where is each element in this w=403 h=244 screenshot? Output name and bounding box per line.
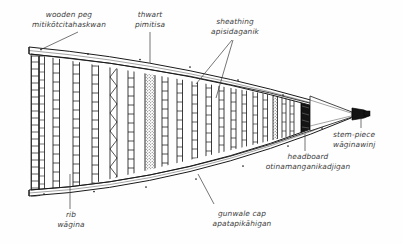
leader-wooden-peg [42, 32, 78, 49]
canoe-framework-drawing [0, 0, 403, 244]
label-sheathing-english: sheathing [196, 17, 274, 27]
label-wooden-peg-english: wooden peg [14, 10, 124, 20]
label-stem-piece-native: wāginawinj [333, 140, 403, 150]
label-gunwale-cap-english: gunwale cap [188, 209, 296, 219]
label-thwart-native: pimitisa [118, 20, 182, 30]
rib-ladder [73, 57, 80, 195]
label-wooden-peg: wooden peg mitikōtcitahaskwan [14, 10, 124, 29]
rib-ladder [177, 67, 183, 184]
label-headboard-english: headboard [253, 152, 363, 162]
rib-ladder [242, 79, 247, 163]
label-rib-native: wāgina [44, 220, 98, 230]
rib-ladder [53, 56, 60, 196]
rib-ladder [231, 76, 236, 167]
rib-ladder [206, 71, 212, 176]
label-headboard-native: otinamanganikadjigan [253, 162, 363, 172]
label-wooden-peg-native: mitikōtcitahaskwan [14, 20, 124, 30]
rib-ladder [92, 58, 99, 194]
hull-assembly [29, 32, 370, 209]
rib-ladder [162, 65, 168, 187]
label-stem-piece: stem-piece wāginawinj [333, 130, 403, 149]
rib-ladder [192, 69, 198, 180]
leader-gunwale-cap [198, 174, 214, 204]
canoe-diagram-page: wooden peg mitikōtcitahaskwan thwart pim… [0, 0, 403, 244]
label-rib-english: rib [44, 210, 98, 220]
label-stem-piece-english: stem-piece [333, 130, 403, 140]
thwart-band [145, 63, 155, 189]
rib-zigzag [110, 59, 117, 193]
label-gunwale-cap: gunwale cap apatapikāhigan [188, 209, 296, 228]
label-rib: rib wāgina [44, 210, 98, 229]
label-sheathing: sheathing apisidaganik [196, 17, 274, 36]
label-sheathing-native: apisidaganik [196, 27, 274, 37]
label-gunwale-cap-native: apatapikāhigan [188, 219, 296, 229]
rib-bundle-left [32, 56, 45, 196]
label-thwart: thwart pimitisa [118, 10, 182, 29]
rib-ladder [263, 84, 268, 154]
label-headboard: headboard otinamanganikadjigan [253, 152, 363, 171]
label-thwart-english: thwart [118, 10, 182, 20]
rib-ladder [253, 81, 258, 158]
rib-ladder [128, 61, 134, 191]
